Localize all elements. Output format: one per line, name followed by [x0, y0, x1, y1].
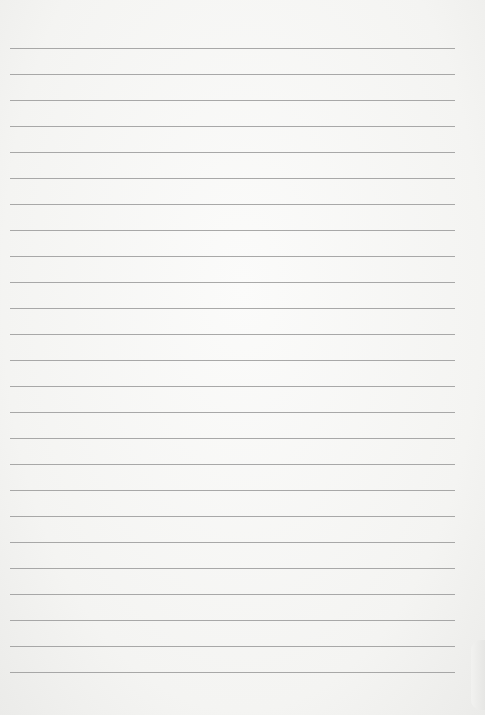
ruled-line — [10, 334, 455, 335]
ruled-line — [10, 126, 455, 127]
ruled-line — [10, 256, 455, 257]
ruled-line — [10, 178, 455, 179]
ruled-line — [10, 568, 455, 569]
ruled-line — [10, 48, 455, 49]
ruled-line — [10, 646, 455, 647]
ruled-line — [10, 516, 455, 517]
ruled-line — [10, 594, 455, 595]
ruled-line — [10, 282, 455, 283]
ruled-line — [10, 412, 455, 413]
ruled-line — [10, 464, 455, 465]
ruled-line — [10, 100, 455, 101]
ruled-line — [10, 360, 455, 361]
paper-edge-shadow — [471, 640, 485, 710]
ruled-line — [10, 308, 455, 309]
ruled-line — [10, 672, 455, 673]
ruled-line — [10, 230, 455, 231]
ruled-line — [10, 74, 455, 75]
ruled-line — [10, 152, 455, 153]
ruled-line — [10, 542, 455, 543]
lined-paper — [0, 0, 485, 715]
ruled-line — [10, 386, 455, 387]
ruled-line — [10, 438, 455, 439]
ruled-line — [10, 204, 455, 205]
ruled-line — [10, 490, 455, 491]
ruled-line — [10, 620, 455, 621]
